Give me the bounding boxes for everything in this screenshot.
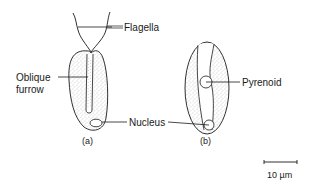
caption-a: (a) (82, 136, 93, 146)
oblique-furrow (86, 54, 93, 113)
cell-a (69, 12, 110, 130)
flagella-label: Flagella (124, 22, 159, 33)
nucleus-a (90, 119, 102, 127)
flagella-strands (73, 12, 110, 52)
oblique-furrow-label-line2: furrow (16, 84, 45, 95)
cell-b (185, 42, 229, 134)
scale-bar-label: 10 µm (267, 170, 292, 180)
flagella-callout: Flagella (78, 22, 159, 33)
pyrenoid-label: Pyrenoid (242, 77, 281, 88)
oblique-furrow-label-line1: Oblique (16, 72, 51, 83)
scale-bar: 10 µm (264, 160, 297, 180)
caption-b: (b) (200, 136, 211, 146)
diagram-canvas: Flagella Oblique furrow Pyrenoid Nucleus… (0, 0, 314, 187)
nucleus-label: Nucleus (129, 117, 165, 128)
